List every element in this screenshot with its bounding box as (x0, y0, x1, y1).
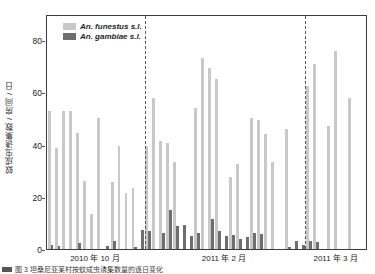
bar-gambiae (106, 246, 109, 249)
chart-figure: 蚊成虫诱集数 / 房间 / 日 020406080 An. funestus s… (0, 0, 375, 274)
bar-funestus (62, 111, 65, 249)
bar-gambiae (148, 231, 151, 249)
legend-item-gambiae: An. gambiae s.l. (63, 32, 142, 41)
bar-gambiae (239, 239, 242, 249)
bar-gambiae (162, 233, 165, 249)
legend-label-funestus: An. funestus s.l. (80, 22, 142, 31)
bar-gambiae (169, 210, 172, 249)
bar-gambiae (218, 231, 221, 249)
bar-gambiae (176, 226, 179, 250)
bar-funestus (55, 148, 58, 249)
bar-funestus (236, 164, 239, 249)
chart-legend: An. funestus s.l.An. gambiae s.l. (63, 22, 142, 41)
bar-gambiae (113, 241, 116, 249)
y-tick-mark-20 (42, 198, 45, 199)
bar-funestus (132, 188, 135, 249)
y-tick-mark-0 (42, 250, 45, 251)
bar-gambiae (309, 241, 312, 249)
bar-funestus (69, 111, 72, 249)
legend-item-funestus: An. funestus s.l. (63, 22, 142, 31)
y-tick-label-20: 20 (20, 193, 42, 203)
bar-funestus (76, 133, 79, 249)
y-tick-mark-60 (42, 93, 45, 94)
bar-gambiae (58, 246, 61, 249)
bar-funestus (90, 214, 93, 249)
bar-funestus (97, 118, 100, 249)
bar-funestus (48, 111, 51, 249)
plot-area (47, 16, 366, 249)
plot-frame: An. funestus s.l.An. gambiae s.l. (46, 15, 367, 250)
bar-funestus (271, 162, 274, 249)
bar-gambiae (246, 237, 249, 249)
bar-gambiae (260, 234, 263, 249)
bar-funestus (125, 193, 128, 249)
bar-funestus (152, 98, 155, 249)
period-divider-1 (145, 16, 146, 249)
bar-funestus (194, 108, 197, 249)
y-tick-label-60: 60 (20, 88, 42, 98)
bar-funestus (201, 58, 204, 249)
bar-gambiae (295, 241, 298, 249)
bar-gambiae (134, 247, 137, 249)
bar-funestus (285, 129, 288, 249)
y-tick-label-0: 0 (20, 245, 42, 255)
bar-funestus (257, 120, 260, 249)
y-axis-tick-labels: 020406080 (18, 0, 42, 274)
bar-gambiae (190, 236, 193, 249)
bar-gambiae (316, 242, 319, 249)
bar-funestus (306, 86, 309, 249)
legend-swatch-gambiae (63, 33, 76, 40)
y-tick-label-80: 80 (20, 36, 42, 46)
bar-funestus (327, 126, 330, 249)
bar-funestus (250, 118, 253, 249)
y-tick-mark-40 (42, 146, 45, 147)
bar-funestus (313, 64, 316, 249)
bar-gambiae (232, 235, 235, 249)
bar-gambiae (51, 245, 54, 249)
bar-gambiae (225, 236, 228, 249)
period-divider-2 (305, 16, 306, 249)
bar-funestus (111, 182, 114, 249)
figure-caption-text: 图 3 坦桑尼亚某村按蚊成虫诱集数量的逐日变化 (15, 266, 163, 274)
y-axis-title: 蚊成虫诱集数 / 房间 / 日 (0, 0, 18, 255)
bar-gambiae (197, 233, 200, 249)
y-tick-label-40: 40 (20, 141, 42, 151)
bar-funestus (83, 181, 86, 249)
bar-gambiae (288, 247, 291, 249)
legend-swatch-funestus (63, 23, 76, 30)
bar-funestus (264, 134, 267, 249)
figure-caption: 图 3 坦桑尼亚某村按蚊成虫诱集数量的逐日变化 (2, 266, 373, 274)
caption-marker-icon (2, 267, 12, 272)
bar-funestus (215, 79, 218, 249)
legend-label-gambiae: An. gambiae s.l. (80, 32, 141, 41)
bar-funestus (118, 146, 121, 249)
y-axis-title-text: 蚊成虫诱集数 / 房间 / 日 (4, 81, 15, 174)
x-period-label-2: 2011 年 2 月 (202, 252, 246, 263)
x-axis-tick-labels: 2010 年 10 月2011 年 2 月2011 年 3 月 (46, 252, 367, 266)
bar-gambiae (211, 219, 214, 249)
bar-gambiae (78, 243, 81, 249)
x-period-label-1: 2010 年 10 月 (70, 252, 119, 263)
bar-funestus (334, 51, 337, 249)
bar-funestus (348, 98, 351, 249)
bar-gambiae (183, 225, 186, 249)
bar-gambiae (253, 233, 256, 249)
y-tick-mark-80 (42, 41, 45, 42)
x-period-label-3: 2011 年 3 月 (313, 252, 357, 263)
